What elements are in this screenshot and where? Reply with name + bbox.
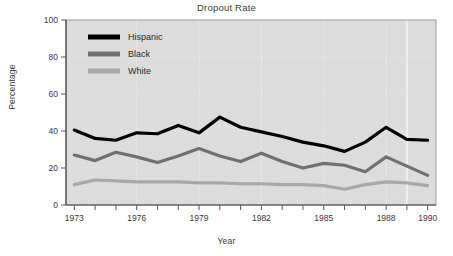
plot-background [66,20,436,205]
y-tick-label-40: 40 [49,126,59,136]
legend-label-black: Black [128,49,151,59]
x-tick-label-1982: 1982 [252,213,271,223]
x-tick-label-1973: 1973 [65,213,84,223]
y-tick-label-60: 60 [49,89,59,99]
dropout-rate-chart: Dropout Rate Percentage Year 02040608010… [0,0,453,256]
y-axis-ticks: 020406080100 [44,15,66,210]
y-tick-label-100: 100 [44,15,58,25]
x-tick-label-1990: 1990 [418,213,437,223]
legend-label-hispanic: Hispanic [128,32,163,42]
x-tick-label-1976: 1976 [127,213,146,223]
x-tick-label-1979: 1979 [190,213,209,223]
x-tick-label-1985: 1985 [314,213,333,223]
y-tick-label-0: 0 [53,200,58,210]
x-tick-label-1988: 1988 [377,213,396,223]
legend-label-white: White [128,66,151,76]
y-tick-label-80: 80 [49,52,59,62]
y-tick-label-20: 20 [49,163,59,173]
plot-area: 020406080100 197319761979198219851988199… [0,0,453,256]
x-axis-ticks: 1973197619791982198519881990 [65,205,438,223]
